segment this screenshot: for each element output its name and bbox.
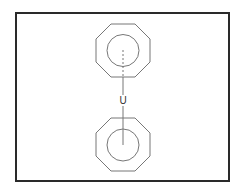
uranium-atom-label: U: [119, 95, 126, 106]
uranocene-structure: U: [0, 0, 242, 194]
top-ring: [96, 24, 150, 77]
